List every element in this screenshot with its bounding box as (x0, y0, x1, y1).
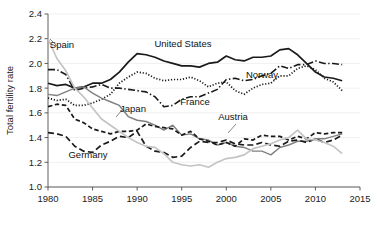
series-label-spain: Spain (50, 39, 74, 50)
series-label-france: France (180, 96, 210, 107)
x-axis-ticks: 19801985199019952000200520102015 (37, 187, 370, 204)
series-label-japan: Japan (120, 103, 146, 114)
x-tick-label: 2000 (216, 193, 237, 204)
y-tick-label: 1.6 (29, 107, 42, 118)
series-label-united-states: United States (154, 38, 211, 49)
chart-canvas: 1.01.21.41.61.82.02.22.4 198019851990199… (0, 0, 377, 231)
x-tick-label: 1995 (171, 193, 192, 204)
y-tick-label: 1.2 (29, 157, 42, 168)
y-tick-label: 2.2 (29, 33, 42, 44)
series-line-united-states (48, 49, 342, 89)
x-tick-label: 2015 (349, 193, 370, 204)
series-label-norway: Norway (246, 69, 278, 80)
series-labels: United StatesNorwayFranceJapanGermanyAus… (50, 38, 279, 160)
y-axis-title: Total fertility rate (4, 66, 15, 135)
y-tick-label: 1.4 (29, 132, 42, 143)
series-label-germany: Germany (68, 149, 107, 160)
x-tick-label: 1980 (37, 193, 58, 204)
y-axis-title-text: Total fertility rate (4, 66, 15, 135)
y-tick-label: 1.8 (29, 83, 42, 94)
x-tick-label: 1990 (127, 193, 148, 204)
y-tick-label: 2.0 (29, 58, 42, 69)
x-tick-label: 2005 (260, 193, 281, 204)
x-tick-label: 1985 (82, 193, 103, 204)
x-tick-label: 2010 (305, 193, 326, 204)
series-label-austria: Austria (218, 111, 248, 122)
y-tick-label: 2.4 (29, 8, 42, 19)
y-tick-label: 1.0 (29, 181, 42, 192)
series-line-austria (48, 104, 342, 146)
fertility-rate-chart: 1.01.21.41.61.82.02.22.4 198019851990199… (0, 0, 377, 231)
leader-austria (228, 124, 236, 133)
y-axis-ticks: 1.01.21.41.61.82.02.22.4 (29, 8, 48, 192)
